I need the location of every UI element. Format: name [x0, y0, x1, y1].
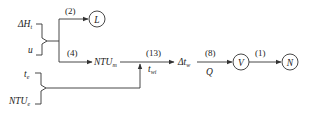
edge-label-4: (4): [67, 48, 78, 58]
brace-bottom: [35, 73, 46, 104]
node-ntu-m: NTUm: [93, 57, 117, 68]
svg-text:L: L: [93, 15, 99, 25]
input-delta-ht: ΔHt: [17, 19, 32, 30]
svg-text:N: N: [286, 58, 294, 68]
edge-label-8: (8): [205, 48, 216, 58]
edge-label-2: (2): [65, 6, 76, 16]
edge-label-1: (1): [255, 48, 266, 58]
edge-label-13: (13): [146, 48, 161, 58]
node-t-wi: twi: [148, 64, 157, 75]
brace-top: [36, 24, 47, 55]
input-ntu-e: NTUe: [8, 96, 30, 107]
input-u: u: [28, 45, 33, 55]
flow-diagram: ΔHt u (2) L (4) NTUm (13) twi te NTUe Δt…: [0, 0, 310, 118]
input-te: te: [24, 69, 30, 80]
node-delta-tw: Δtw: [177, 57, 190, 68]
node-Q: Q: [206, 67, 213, 77]
